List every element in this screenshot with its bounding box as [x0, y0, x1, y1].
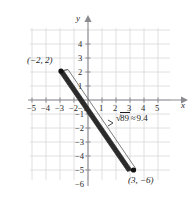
xtick-label-neg4: −4 [41, 104, 50, 113]
distance-formula-graph-figure: −5 −4 −3 −2 −1 1 2 3 4 5 4 3 2 1 −1 −2 −… [0, 0, 195, 199]
ytick-label-neg6: −6 [75, 180, 84, 189]
ytick-label-neg3: −3 [75, 138, 84, 147]
axis-label-x: x [181, 101, 185, 110]
ytick-label-1: 1 [78, 82, 82, 91]
approx-relation-sign: ≈ [131, 113, 136, 123]
ytick-label-3: 3 [78, 54, 82, 63]
point-label-upper: (−2, 2) [27, 56, 53, 65]
ytick-label-4: 4 [78, 40, 82, 49]
xtick-label-4: 4 [141, 104, 145, 113]
ytick-label-neg1: −1 [75, 110, 84, 119]
axis-y-arrowhead [84, 15, 91, 22]
ytick-label-neg4: −4 [75, 152, 84, 161]
point-marker-upper [58, 68, 63, 73]
ytick-label-neg2: −2 [75, 124, 84, 133]
segment-outline-edge-top [64, 70, 69, 71]
point-label-lower: (3, −6) [128, 176, 154, 185]
point-marker-lower [131, 167, 136, 172]
ytick-label-2: 2 [78, 68, 82, 77]
xtick-label-1: 1 [99, 104, 103, 113]
xtick-label-2: 2 [113, 104, 117, 113]
coordinate-plane-svg [0, 0, 195, 199]
distance-value: 9.4 [136, 113, 147, 123]
distance-annotation: √89 ≈ 9.4 [116, 114, 148, 123]
xtick-label-neg5: −5 [27, 104, 36, 113]
axis-label-y: y [76, 14, 80, 23]
xtick-label-neg3: −3 [55, 104, 64, 113]
xtick-label-5: 5 [155, 104, 159, 113]
radicand-value: 89 [120, 112, 130, 123]
distance-leader-line [108, 120, 113, 126]
ytick-label-neg5: −5 [75, 166, 84, 175]
